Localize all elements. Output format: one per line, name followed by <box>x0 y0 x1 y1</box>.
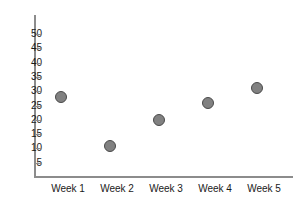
y-axis-tick-mark <box>36 148 42 149</box>
y-axis-line <box>34 15 36 178</box>
x-axis-label-1: Week 1 <box>51 183 85 194</box>
y-axis-tick-mark <box>36 134 42 135</box>
y-axis-tick-mark <box>36 48 42 49</box>
data-point <box>153 114 165 126</box>
y-axis-tick-mark <box>36 106 42 107</box>
y-axis-tick-mark <box>36 163 42 164</box>
plot-area: 5101520253035404550 Week 1Week 2Week 3We… <box>0 0 299 209</box>
x-axis-label-3: Week 3 <box>149 183 183 194</box>
x-axis-label-4: Week 4 <box>198 183 232 194</box>
y-axis-tick-mark <box>36 34 42 35</box>
y-axis-tick-mark <box>36 77 42 78</box>
scatter-chart: 5101520253035404550 Week 1Week 2Week 3We… <box>0 0 299 209</box>
y-axis-tick-mark <box>36 63 42 64</box>
data-point <box>55 91 67 103</box>
x-axis-label-5: Week 5 <box>247 183 281 194</box>
y-axis-tick-mark <box>36 91 42 92</box>
y-axis-tick-mark <box>36 120 42 121</box>
x-axis-label-2: Week 2 <box>100 183 134 194</box>
data-point <box>251 82 263 94</box>
x-axis-line <box>34 176 293 178</box>
data-point <box>104 140 116 152</box>
data-point <box>202 97 214 109</box>
